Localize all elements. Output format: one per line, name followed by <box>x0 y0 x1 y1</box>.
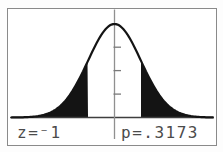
normal-curve <box>11 24 214 118</box>
z-readout: z=⁻1 <box>17 123 62 142</box>
p-readout: p=.3173 <box>121 123 199 142</box>
right-tail-shade <box>141 61 214 118</box>
left-tail-shade <box>11 62 88 118</box>
